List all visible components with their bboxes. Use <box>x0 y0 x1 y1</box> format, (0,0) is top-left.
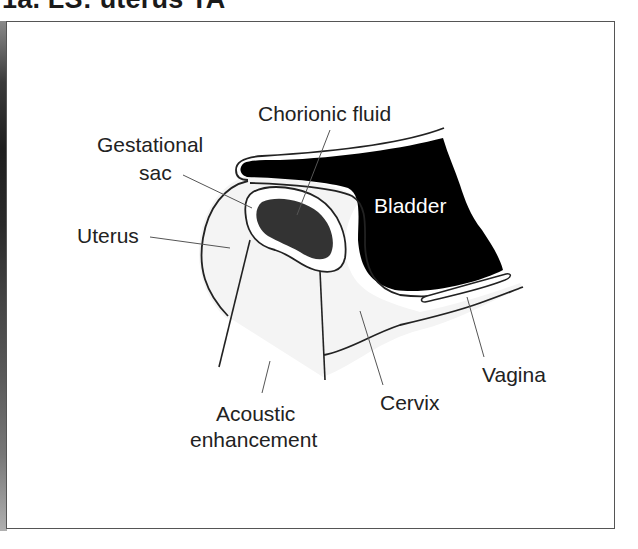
label-gestational-sac-line2: sac <box>139 161 172 184</box>
ultrasound-diagram: Chorionic fluid Gestational sac Uterus B… <box>0 0 638 549</box>
label-uterus: Uterus <box>77 224 139 247</box>
label-vagina: Vagina <box>482 363 546 386</box>
label-bladder: Bladder <box>374 194 446 217</box>
label-acoustic-line2: enhancement <box>190 428 317 451</box>
label-acoustic-line1: Acoustic <box>216 402 295 425</box>
label-cervix: Cervix <box>380 391 440 414</box>
label-gestational-sac-line1: Gestational <box>97 133 203 156</box>
leader-acoustic <box>262 361 270 393</box>
label-chorionic-fluid: Chorionic fluid <box>258 102 391 125</box>
